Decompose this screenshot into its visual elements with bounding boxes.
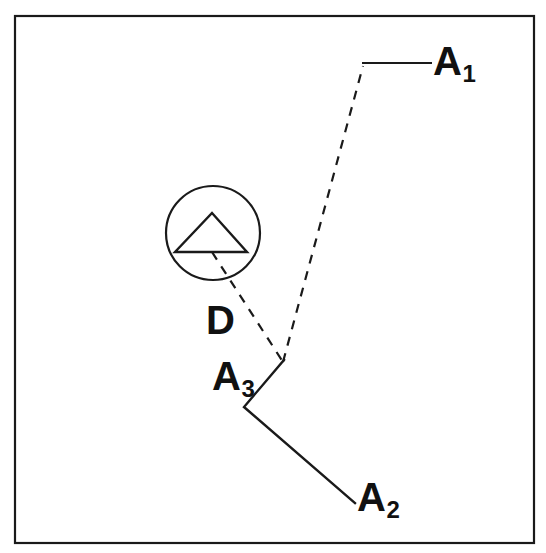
label-a3: A3 bbox=[212, 356, 253, 396]
outer-border-frame bbox=[15, 16, 534, 543]
label-a1-subscript: 1 bbox=[462, 60, 475, 87]
label-d-base: D bbox=[206, 298, 234, 342]
label-a2-base: A bbox=[357, 475, 385, 519]
label-a1: A1 bbox=[433, 41, 474, 81]
label-a3-base: A bbox=[212, 354, 240, 398]
label-a1-base: A bbox=[433, 39, 461, 83]
label-a2: A2 bbox=[357, 477, 398, 517]
label-a3-subscript: 3 bbox=[241, 375, 254, 402]
figure-canvas: A1 A2 A3 D bbox=[0, 0, 546, 553]
label-a2-subscript: 2 bbox=[386, 496, 399, 523]
label-d: D bbox=[206, 300, 234, 340]
